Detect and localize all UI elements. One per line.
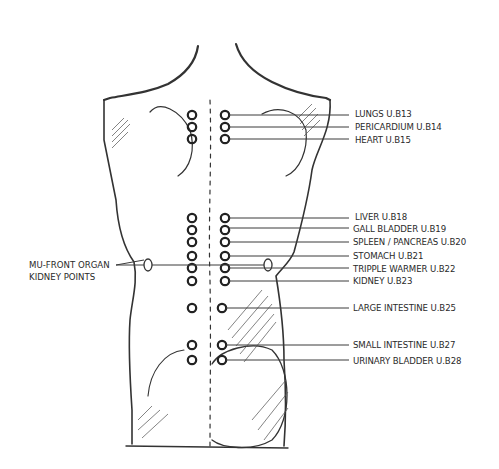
label-kidney: KIDNEY U.B23 <box>353 276 412 286</box>
label-pericardium: PERICARDIUM U.B14 <box>355 122 442 132</box>
label-mu-front-organ: MU-FRONT ORGAN <box>29 259 110 271</box>
label-urinary-bladder: URINARY BLADDER U.B28 <box>353 356 461 366</box>
label-liver: LIVER U.B18 <box>355 212 407 222</box>
label-lungs: LUNGS U.B13 <box>355 109 412 119</box>
label-heart: HEART U.B15 <box>355 135 411 145</box>
label-large-intestine: LARGE INTESTINE U.B25 <box>353 303 456 313</box>
label-small-intestine: SMALL INTESTINE U.B27 <box>353 340 455 350</box>
back-torso-illustration <box>0 0 499 469</box>
label-tripple-warmer: TRIPPLE WARMER U.B22 <box>353 264 455 274</box>
label-spleen-pancreas: SPLEEN / PANCREAS U.B20 <box>353 237 466 247</box>
label-gall-bladder: GALL BLADDER U.B19 <box>353 224 446 234</box>
label-kidney-points: KIDNEY POINTS <box>29 271 95 283</box>
label-stomach: STOMACH U.B21 <box>353 251 423 261</box>
acupuncture-back-diagram: LUNGS U.B13 PERICARDIUM U.B14 HEART U.B1… <box>0 0 499 469</box>
